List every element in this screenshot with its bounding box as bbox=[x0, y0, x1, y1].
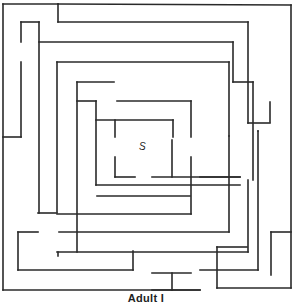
start-label: S bbox=[139, 141, 146, 152]
maze-diagram bbox=[0, 0, 292, 292]
maze-caption: Adult I bbox=[0, 292, 292, 304]
maze-wall bbox=[58, 4, 291, 5]
